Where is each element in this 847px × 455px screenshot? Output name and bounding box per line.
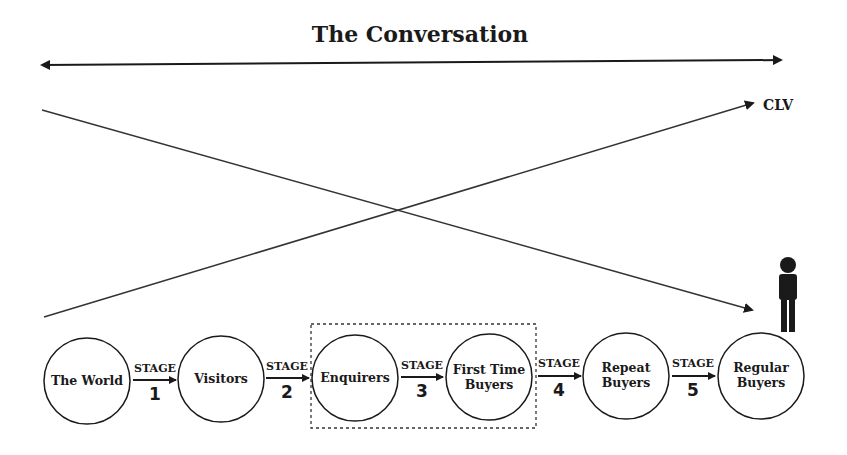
stage-number: 4 bbox=[553, 380, 565, 400]
node-label: Visitors bbox=[193, 371, 248, 386]
node-label-line2: Buyers bbox=[465, 377, 514, 392]
stage-connector-1: STAGE 1 bbox=[133, 362, 176, 404]
node-first-time-buyers: First Time Buyers bbox=[446, 334, 532, 420]
clv-trend-arrow bbox=[44, 103, 753, 317]
node-label-line1: Regular bbox=[733, 360, 789, 375]
stage-label: STAGE bbox=[134, 362, 176, 375]
node-label-line1: First Time bbox=[453, 362, 526, 377]
stage-connector-2: STAGE 2 bbox=[266, 360, 309, 402]
stage-number: 5 bbox=[687, 380, 699, 400]
stage-number: 1 bbox=[149, 384, 161, 404]
stage-label: STAGE bbox=[266, 360, 308, 373]
stage-number: 2 bbox=[281, 382, 293, 402]
node-regular-buyers: Regular Buyers bbox=[718, 333, 804, 419]
conversation-double-arrow bbox=[42, 60, 781, 65]
node-label: The World bbox=[51, 373, 123, 388]
clv-label: CLV bbox=[763, 97, 794, 113]
person-icon bbox=[779, 257, 797, 332]
node-label-line2: Buyers bbox=[602, 375, 651, 390]
node-enquirers: Enquirers bbox=[312, 335, 398, 421]
node-label-line2: Buyers bbox=[737, 375, 786, 390]
stage-connector-4: STAGE 4 bbox=[538, 357, 581, 400]
stage-connector-3: STAGE 3 bbox=[401, 359, 443, 401]
stage-label: STAGE bbox=[401, 359, 443, 372]
node-the-world: The World bbox=[44, 338, 130, 424]
node-visitors: Visitors bbox=[178, 336, 264, 422]
diagram-title: The Conversation bbox=[312, 21, 528, 47]
node-repeat-buyers: Repeat Buyers bbox=[583, 333, 669, 419]
conversation-diagram: The Conversation CLV The World Visitors … bbox=[0, 0, 847, 455]
stage-label: STAGE bbox=[672, 357, 714, 370]
node-label-line1: Repeat bbox=[602, 360, 651, 375]
stage-label: STAGE bbox=[538, 357, 580, 370]
node-label: Enquirers bbox=[320, 370, 389, 385]
stage-number: 3 bbox=[416, 381, 428, 401]
stage-connector-5: STAGE 5 bbox=[672, 357, 715, 400]
